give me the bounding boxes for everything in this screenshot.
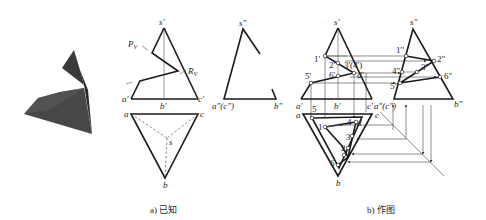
edge-sb (165, 138, 167, 178)
edge-as (131, 114, 167, 138)
label-3: 3 (346, 132, 351, 142)
label-s: s (169, 137, 173, 147)
label-5-dprime: 5" (390, 81, 399, 91)
upper-facet (62, 50, 84, 85)
edge-cs (167, 114, 198, 138)
label-ac-dprime: a"(c") (212, 101, 234, 111)
label-c: c (200, 109, 204, 119)
label-2: 2 (341, 143, 346, 153)
label-6-dprime: 6" (444, 71, 453, 81)
top-outline (131, 114, 198, 178)
label-3-dprime: 3" (421, 62, 430, 72)
label-2-prime: 2' (329, 60, 336, 70)
label-b: b (163, 180, 168, 190)
miter-line (380, 112, 444, 176)
label-s-prime: s' (159, 17, 166, 27)
label-6-prime: 6' (329, 70, 336, 80)
part-b-side-view: s" 1" 2" 3" 4" 5" 6" a"(c") b" (374, 17, 463, 111)
label-b-dprime: b" (274, 101, 283, 111)
label-1: 1 (318, 122, 323, 132)
label-2-dprime: 2" (437, 54, 446, 64)
label-a: a (296, 110, 301, 120)
label-c-prime: c' (198, 94, 205, 104)
label-a: a (124, 109, 129, 119)
part-b-front-view: s' 1' 2' 3'(4') 6' 5' d' a' b' c' (296, 17, 374, 111)
label-b-prime: b' (334, 101, 342, 111)
label-s-prime: s' (334, 17, 341, 27)
caption-a: a) 已知 (150, 204, 177, 215)
part-a-top-view: a c s b (124, 109, 204, 190)
label-1-dprime: 1" (396, 45, 405, 55)
part-b-top-view: a c d b 1 2 3 4 5 6 (296, 104, 379, 188)
label-d-prime: d' (357, 70, 365, 80)
label-d: d (357, 118, 362, 128)
side-outline (224, 29, 276, 99)
notch-outline (131, 28, 178, 99)
part-a-front-view: s' PV RV a' b' c' (122, 17, 205, 111)
label-4: 4 (347, 117, 352, 127)
label-5-prime: 5' (305, 71, 312, 81)
left-tick (126, 82, 132, 84)
label-c: c (375, 110, 379, 120)
label-s-dprime: s" (239, 18, 247, 28)
label-6: 6 (330, 158, 335, 168)
label-a-prime: a' (122, 94, 130, 104)
label-c-prime: c' (367, 101, 374, 111)
label-4-dprime: 4" (392, 66, 401, 76)
label-5: 5 (312, 104, 317, 114)
caption-b: b) 作图 (367, 204, 395, 215)
label-b: b (336, 178, 341, 188)
part-a-side-view: s" a"(c") b" (212, 18, 283, 111)
pv-leader (142, 46, 148, 50)
label-34-prime: 3'(4') (344, 60, 362, 70)
label-rv: RV (187, 66, 199, 77)
label-b-dprime: b" (454, 99, 463, 109)
label-1-prime: 1' (314, 54, 321, 64)
label-b-prime: b' (160, 101, 168, 111)
projection-drawing: s' PV RV a' b' c' s" a"(c") b" a c s b a… (0, 0, 486, 220)
label-s-dprime: s" (410, 17, 418, 27)
edge-sc (164, 28, 198, 99)
label-pv: PV (127, 39, 139, 50)
isometric-sketch (24, 50, 92, 134)
